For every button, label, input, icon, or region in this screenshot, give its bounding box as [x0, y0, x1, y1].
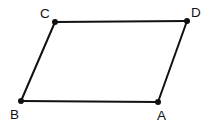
vertex-dot-b [18, 98, 24, 104]
parallelogram-figure: C D A B [0, 0, 213, 129]
edge-c-to-d [55, 21, 187, 22]
vertex-dot-d [184, 18, 190, 24]
vertex-label-d: D [191, 5, 201, 20]
geometry-canvas: C D A B [0, 0, 213, 129]
edge-a-to-b [21, 101, 158, 102]
vertex-label-a: A [157, 108, 166, 123]
vertex-dot-a [155, 99, 161, 105]
vertex-label-c: C [40, 6, 50, 21]
vertex-label-b: B [10, 107, 19, 122]
vertex-dot-c [52, 19, 58, 25]
